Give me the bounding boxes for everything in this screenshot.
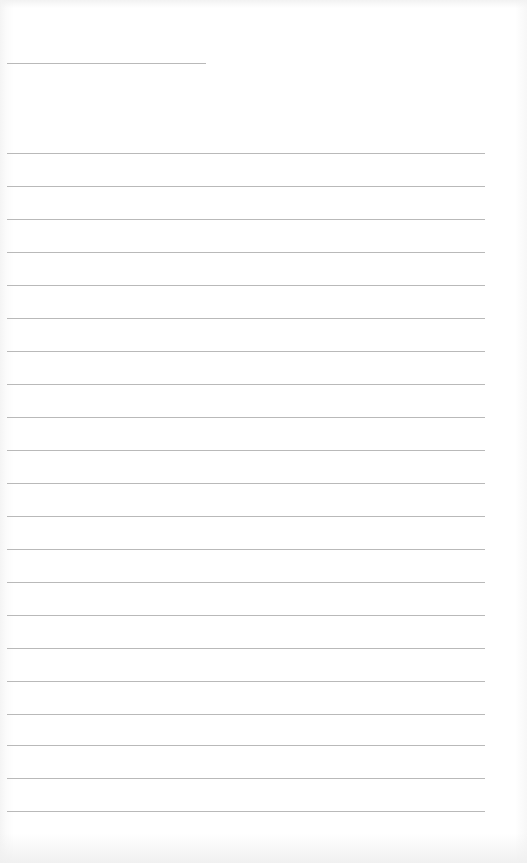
ruled-line xyxy=(7,318,485,319)
page-top-shadow xyxy=(0,0,527,8)
ruled-line xyxy=(7,745,485,746)
ruled-line xyxy=(7,778,485,779)
ruled-line xyxy=(7,351,485,352)
ruled-line xyxy=(7,153,485,154)
ruled-line xyxy=(7,384,485,385)
ruled-line xyxy=(7,714,485,715)
lined-page xyxy=(0,0,527,863)
ruled-line xyxy=(7,516,485,517)
ruled-line xyxy=(7,811,485,812)
ruled-line xyxy=(7,582,485,583)
header-field-line xyxy=(7,63,206,64)
ruled-line xyxy=(7,450,485,451)
ruled-line xyxy=(7,186,485,187)
ruled-line xyxy=(7,648,485,649)
page-bottom-shadow xyxy=(0,833,527,863)
ruled-line xyxy=(7,285,485,286)
ruled-line xyxy=(7,252,485,253)
ruled-line xyxy=(7,417,485,418)
ruled-line xyxy=(7,549,485,550)
ruled-line xyxy=(7,219,485,220)
ruled-line xyxy=(7,681,485,682)
ruled-line xyxy=(7,615,485,616)
ruled-line xyxy=(7,483,485,484)
